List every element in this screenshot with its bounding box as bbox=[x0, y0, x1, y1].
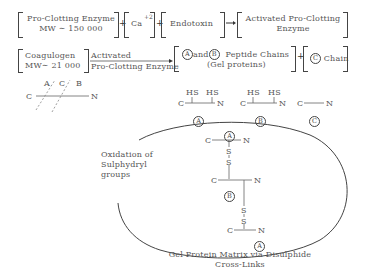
c-end: C bbox=[205, 136, 211, 145]
hs-group: HS bbox=[247, 88, 260, 97]
and-label: and bbox=[193, 50, 209, 59]
sulfur-atom: S bbox=[226, 147, 232, 156]
bracket-right bbox=[343, 12, 348, 38]
bracket-left bbox=[18, 12, 23, 38]
gel-proteins-label: (Gel proteins) bbox=[207, 60, 266, 69]
arrow-label-line2: Pro-Clotting Enzyme bbox=[91, 62, 179, 71]
c-end: C bbox=[211, 176, 217, 185]
n-end: N bbox=[279, 99, 286, 108]
bracket-left bbox=[124, 12, 129, 38]
bracket-left bbox=[161, 12, 166, 38]
activated-enzyme-line2: Enzyme bbox=[242, 24, 344, 33]
chain-a-circle: A bbox=[182, 49, 193, 60]
cleavage-site-b: B bbox=[76, 79, 82, 88]
chain-b-circle: B bbox=[255, 116, 266, 127]
endotoxin-label: Endotoxin bbox=[170, 19, 213, 28]
oxidation-line3: groups bbox=[101, 170, 153, 180]
hs-group: HS bbox=[206, 88, 219, 97]
cleavage-site-c: C bbox=[59, 79, 65, 88]
cleavage-c-end: C bbox=[26, 92, 32, 101]
n-end: N bbox=[254, 176, 261, 185]
chain-a-circle: A bbox=[193, 116, 204, 127]
chain-b-circle: B bbox=[209, 49, 220, 60]
n-end: N bbox=[326, 99, 333, 108]
n-end: N bbox=[217, 99, 224, 108]
matrix-unit-b-circle: B bbox=[224, 191, 235, 202]
arrow-label-line1: Activated bbox=[91, 51, 131, 60]
pro-clotting-enzyme-mw: MW ∼ 150 000 bbox=[24, 24, 118, 33]
cleavage-n-end: N bbox=[91, 92, 98, 101]
bracket-right bbox=[220, 12, 225, 38]
n-end: N bbox=[243, 136, 250, 145]
sulfur-atom: S bbox=[241, 206, 247, 215]
hs-group: HS bbox=[186, 88, 199, 97]
bracket-left bbox=[303, 46, 308, 72]
chain-c-circle: C bbox=[309, 116, 320, 127]
sulfur-atom: S bbox=[241, 217, 247, 226]
reaction-arrow-row1 bbox=[226, 21, 236, 25]
oxidation-line1: Oxidation of bbox=[101, 150, 153, 160]
bracket-left bbox=[174, 46, 179, 72]
calcium-symbol: Ca bbox=[131, 19, 142, 28]
sulfur-atom: S bbox=[226, 158, 232, 167]
n-end: N bbox=[258, 226, 265, 235]
pro-clotting-enzyme-label: Pro-Clotting Enzyme bbox=[24, 14, 118, 23]
activated-enzyme-line1: Activated Pro-Clotting bbox=[242, 14, 344, 23]
bracket-left bbox=[18, 49, 23, 73]
oxidation-line2: Sulphydryl bbox=[101, 160, 153, 170]
chain-b-lines bbox=[247, 97, 277, 103]
peptide-chains-line: AandB Peptide Chains bbox=[182, 49, 289, 60]
bracket-right bbox=[150, 12, 155, 38]
chain-c-circle: C bbox=[310, 53, 321, 64]
bracket-right bbox=[84, 49, 89, 73]
matrix-caption: Gel Protein Matrix via Disulphide Cross-… bbox=[160, 250, 320, 270]
c-end: C bbox=[227, 226, 233, 235]
bracket-right bbox=[343, 46, 348, 72]
peptide-chains-label: Peptide Chains bbox=[225, 50, 289, 59]
matrix-unit-a-circle: A bbox=[224, 131, 235, 142]
cleavage-site-a: A bbox=[44, 79, 50, 88]
coagulogen-label: Coagulogen bbox=[25, 51, 75, 60]
chain-a-lines bbox=[185, 97, 215, 103]
bracket-right bbox=[291, 46, 296, 72]
caption-line1: Gel Protein Matrix via Disulphide bbox=[160, 250, 320, 260]
hs-group: HS bbox=[268, 88, 281, 97]
c-end: C bbox=[178, 99, 184, 108]
c-end: C bbox=[297, 99, 303, 108]
oxidation-label: Oxidation of Sulphydryl groups bbox=[101, 150, 153, 180]
c-end: C bbox=[240, 99, 246, 108]
disulphide-structure bbox=[212, 140, 256, 230]
diagram-graphics bbox=[0, 0, 366, 278]
caption-line2: Cross-Links bbox=[160, 260, 320, 270]
coagulogen-mw: MW∼ 21 000 bbox=[25, 61, 81, 70]
